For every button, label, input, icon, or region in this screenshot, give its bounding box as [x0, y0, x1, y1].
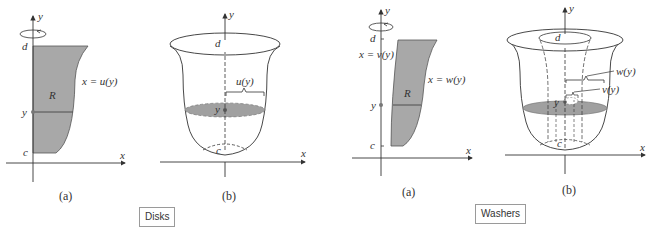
washers-panel-a: y x d c y R x = v(y) x = w(y) (a): [352, 4, 472, 199]
inner-curve-label: x = v(y): [358, 48, 394, 61]
washers-tag: Washers: [475, 204, 526, 224]
outer-curve-label: x = w(y): [427, 73, 466, 86]
lower-bound-label: c: [23, 146, 28, 158]
lower-bound-label: c: [557, 137, 562, 149]
y-axis-label: y: [37, 10, 43, 22]
outer-radius-brace: [566, 76, 604, 83]
radius-brace: [226, 88, 264, 96]
disks-tag: Disks: [139, 207, 175, 227]
region-label: R: [48, 89, 56, 101]
inner-radius-leader: [574, 89, 600, 92]
figure-canvas: y x d c y R x = u(y) (a) y x d c y u(y) …: [0, 0, 652, 232]
x-axis-label: x: [300, 147, 306, 159]
y-axis-label: y: [384, 4, 390, 16]
upper-bound-label: d: [22, 40, 28, 52]
upper-bound-label: d: [555, 31, 561, 43]
outer-radius-label: w(y): [616, 65, 636, 78]
sample-point: [563, 100, 567, 104]
sample-label: y: [214, 103, 220, 115]
disks-panel-a: y x d c y R x = u(y) (a): [6, 10, 125, 203]
sample-point: [31, 110, 35, 114]
inner-wall-left: [540, 40, 548, 142]
lower-bound-label: c: [370, 139, 375, 151]
x-axis-label: x: [465, 144, 471, 156]
washers-panel-b: y x d c y w(y) v(y) (b): [505, 2, 645, 197]
inner-radius-brace: [566, 92, 578, 98]
x-axis-label: x: [119, 149, 125, 161]
sample-label: y: [370, 99, 376, 111]
region-label: R: [403, 87, 411, 99]
sample-point: [223, 108, 227, 112]
radius-label: u(y): [236, 75, 254, 88]
caption-a: (a): [402, 185, 415, 199]
caption-b: (b): [222, 189, 236, 203]
region-r: [33, 46, 88, 153]
y-axis-label: y: [228, 8, 234, 20]
caption-a: (a): [59, 189, 72, 203]
region-r: [391, 40, 437, 146]
sample-point: [379, 103, 383, 107]
caption-b: (b): [562, 183, 576, 197]
sample-label: y: [553, 96, 559, 108]
sample-label: y: [21, 106, 27, 118]
y-axis-label: y: [568, 2, 574, 14]
disks-panel-b: y x d c y u(y) (b): [160, 8, 306, 203]
x-axis-label: x: [639, 141, 645, 153]
upper-bound-label: d: [370, 32, 376, 44]
upper-bound-label: d: [215, 37, 221, 49]
curve-label: x = u(y): [81, 75, 118, 88]
lower-bound-label: c: [216, 144, 221, 156]
inner-radius-label: v(y): [602, 83, 619, 96]
